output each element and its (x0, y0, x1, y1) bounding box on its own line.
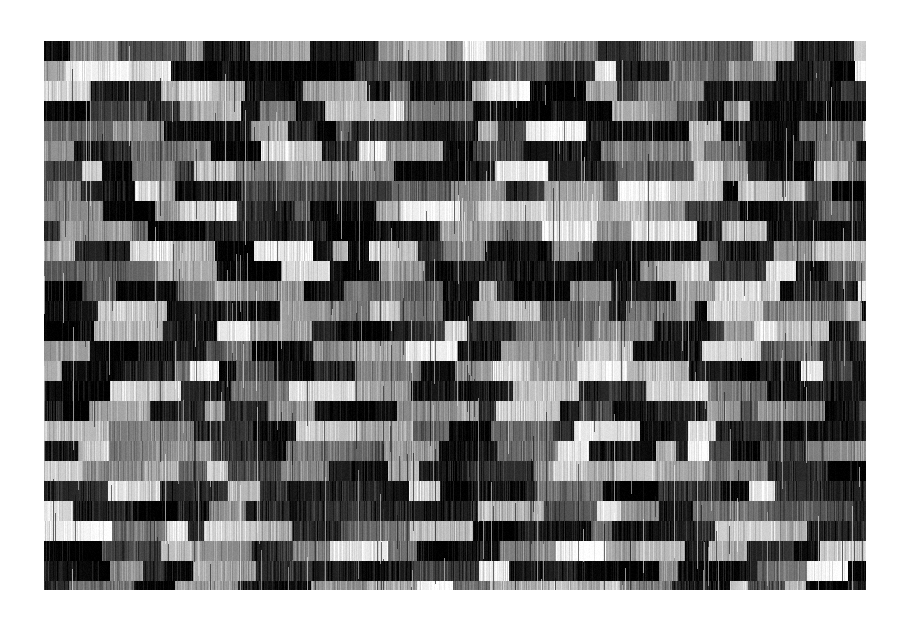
texture-canvas (44, 41, 866, 590)
page (0, 0, 911, 619)
grayscale-texture-image (44, 41, 866, 590)
